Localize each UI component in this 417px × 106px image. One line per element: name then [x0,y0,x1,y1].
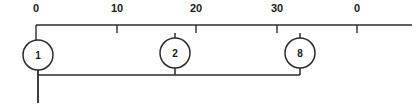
number-line-diagram: 0 10 20 30 0 1 2 8 [0,0,417,106]
tick-label-10: 10 [111,2,123,14]
node-label-1: 1 [35,50,41,61]
diagram-canvas: 0 10 20 30 0 1 2 8 [0,0,417,106]
tick-label-30: 30 [271,2,283,14]
tick-label-20: 20 [190,2,202,14]
tick-label-0-left: 0 [33,2,39,14]
node-label-8: 8 [297,48,303,59]
tick-label-0-right: 0 [354,2,360,14]
node-label-2: 2 [172,48,178,59]
